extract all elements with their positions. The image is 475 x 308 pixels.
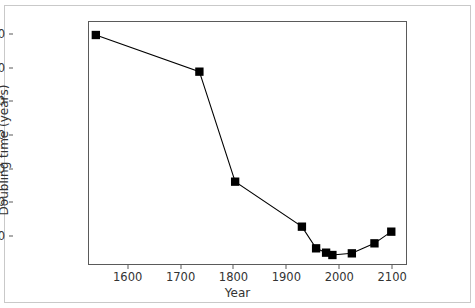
x-axis-tick-mark: [127, 265, 128, 269]
x-axis-tick-label: 1600: [113, 270, 142, 284]
x-axis-tick-label: 1800: [219, 270, 248, 284]
y-axis-tick-group: 100200300400500600700: [0, 0, 88, 308]
data-point-marker: [370, 239, 378, 247]
plot-area: [88, 21, 407, 265]
data-point-marker: [298, 223, 306, 231]
x-axis-tick-mark: [180, 265, 181, 269]
x-axis-tick-mark: [233, 265, 234, 269]
data-point-marker: [328, 251, 336, 259]
x-axis-tick-label: 1900: [272, 270, 301, 284]
data-point-marker: [312, 244, 320, 252]
data-point-marker: [231, 178, 239, 186]
series-line: [96, 35, 391, 255]
x-axis-tick-mark: [286, 265, 287, 269]
x-axis-tick-label: 2100: [378, 270, 407, 284]
x-axis-label: Year: [0, 286, 475, 300]
data-point-marker: [387, 228, 395, 236]
x-axis-tick-label: 2000: [325, 270, 354, 284]
x-axis-tick-mark: [339, 265, 340, 269]
series-markers: [92, 31, 396, 259]
data-point-marker: [348, 249, 356, 257]
data-point-marker: [195, 68, 203, 76]
y-axis-label: Doubling time (years): [0, 20, 11, 280]
data-point-marker: [92, 31, 100, 39]
figure: 100200300400500600700 Doubling time (yea…: [0, 0, 475, 308]
x-axis-tick-mark: [392, 265, 393, 269]
x-axis-tick-label: 1700: [166, 270, 195, 284]
data-series-layer: [89, 22, 406, 264]
